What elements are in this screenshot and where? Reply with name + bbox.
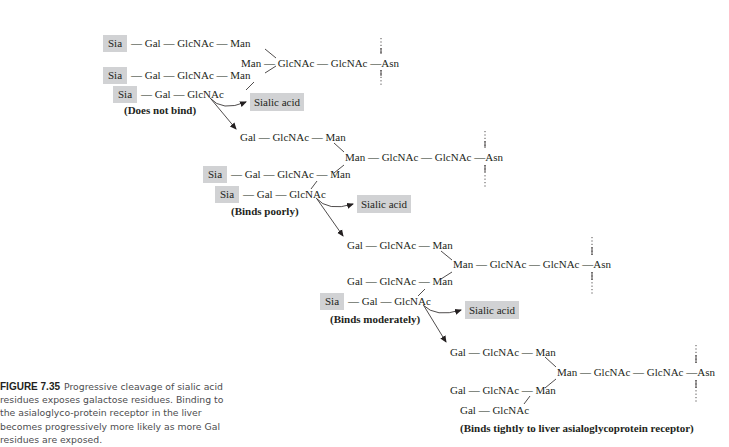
cleavage-arrow (423, 305, 461, 313)
branch-line (334, 143, 344, 152)
branch-line (545, 357, 556, 367)
branch-line (246, 82, 254, 90)
branch-line (418, 289, 425, 296)
branch-line (441, 251, 452, 260)
branch-line (334, 165, 344, 173)
branch-line (265, 66, 276, 73)
branch-line (265, 49, 276, 58)
branch-line (545, 379, 556, 388)
branch-line (524, 396, 530, 404)
figure-number: FIGURE 7.35 (0, 381, 60, 392)
progression-arrow (317, 199, 343, 236)
progression-arrow (424, 306, 446, 342)
cleavage-arrow (210, 98, 246, 106)
branch-line (311, 181, 317, 189)
figure-caption: FIGURE 7.35Progressive cleavage of siali… (0, 380, 235, 446)
branch-line (441, 272, 452, 279)
progression-arrow (211, 99, 236, 129)
